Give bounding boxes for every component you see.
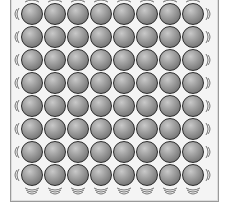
particle-sphere <box>90 95 112 117</box>
particle-sphere <box>136 26 158 48</box>
figure-caption <box>10 210 220 217</box>
particle-sphere <box>182 72 204 94</box>
particle-sphere <box>21 49 43 71</box>
particle-sphere <box>44 49 66 71</box>
particle-sphere <box>182 95 204 117</box>
particle-sphere <box>182 141 204 163</box>
particle-sphere <box>159 95 181 117</box>
particle-sphere <box>182 49 204 71</box>
particle-sphere <box>44 118 66 140</box>
particle-sphere <box>21 164 43 186</box>
particle-sphere <box>67 26 89 48</box>
particle-sphere <box>21 3 43 25</box>
particle-sphere <box>182 164 204 186</box>
particle-sphere <box>90 3 112 25</box>
particle-sphere <box>21 95 43 117</box>
particle-sphere <box>44 26 66 48</box>
particle-sphere <box>182 118 204 140</box>
particle-sphere <box>90 49 112 71</box>
particle-sphere <box>44 3 66 25</box>
particle-sphere <box>136 49 158 71</box>
particle-sphere <box>44 72 66 94</box>
particle-sphere <box>90 141 112 163</box>
particle-sphere <box>21 118 43 140</box>
particle-sphere <box>67 49 89 71</box>
particle-sphere <box>90 118 112 140</box>
particle-sphere <box>159 164 181 186</box>
particle-sphere <box>67 72 89 94</box>
particle-sphere <box>67 141 89 163</box>
particle-sphere <box>113 164 135 186</box>
particle-sphere <box>113 118 135 140</box>
particle-sphere <box>21 72 43 94</box>
particle-sphere <box>159 26 181 48</box>
particle-grid <box>21 3 205 187</box>
particle-sphere <box>90 164 112 186</box>
particle-sphere <box>136 72 158 94</box>
particle-sphere <box>159 118 181 140</box>
particle-sphere <box>67 3 89 25</box>
particle-sphere <box>136 118 158 140</box>
particle-sphere <box>136 3 158 25</box>
particle-sphere <box>182 26 204 48</box>
particle-sphere <box>159 141 181 163</box>
particle-sphere <box>44 95 66 117</box>
particle-sphere <box>67 95 89 117</box>
particle-sphere <box>90 72 112 94</box>
particle-sphere <box>159 72 181 94</box>
particle-sphere <box>136 95 158 117</box>
particle-sphere <box>21 26 43 48</box>
particle-sphere <box>44 141 66 163</box>
particle-sphere <box>136 164 158 186</box>
particle-sphere <box>159 49 181 71</box>
particle-sphere <box>113 72 135 94</box>
particle-sphere <box>182 3 204 25</box>
particle-sphere <box>113 141 135 163</box>
particle-sphere <box>113 95 135 117</box>
particle-sphere <box>136 141 158 163</box>
particle-sphere <box>113 49 135 71</box>
particle-sphere <box>67 118 89 140</box>
particle-sphere <box>113 3 135 25</box>
particle-sphere <box>44 164 66 186</box>
particle-sphere <box>113 26 135 48</box>
particle-sphere <box>67 164 89 186</box>
particle-sphere <box>90 26 112 48</box>
particle-sphere <box>21 141 43 163</box>
particle-sphere <box>159 3 181 25</box>
